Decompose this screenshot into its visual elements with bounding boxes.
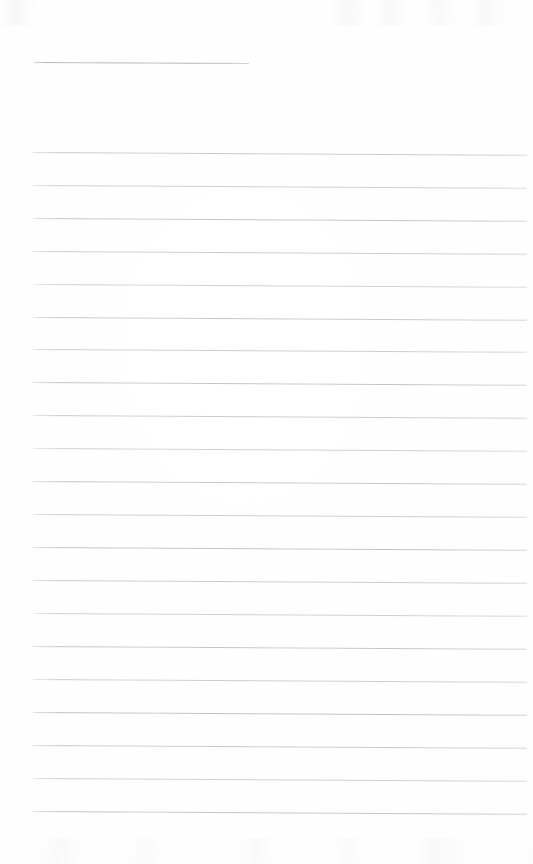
writing-line [0,634,533,647]
rule-line [33,218,527,222]
rule-line [33,646,527,650]
writing-line [0,700,533,713]
rule-line [33,382,527,386]
writing-line [0,206,533,219]
rule-line [33,448,527,452]
writing-line [0,766,533,779]
writing-line [0,733,533,746]
rule-line [33,415,527,419]
writing-line [0,436,533,449]
rule-line [33,547,527,551]
writing-line [0,502,533,515]
paper-surface [0,0,533,864]
title-rule [33,62,249,64]
rule-line [33,745,527,749]
writing-line [0,667,533,680]
rule-line [33,514,527,518]
writing-line [0,601,533,614]
writing-line [0,305,533,318]
writing-line [0,272,533,285]
rule-line [33,349,527,353]
rule-line [33,712,527,716]
rule-line [33,284,527,288]
rule-line [33,580,527,584]
writing-line [0,403,533,416]
rule-line [33,778,527,782]
writing-line [0,799,533,812]
rule-line [33,152,527,156]
rule-line [33,251,527,255]
scan-artifact-top [0,0,533,26]
writing-line [0,469,533,482]
scan-artifact-bottom [0,838,533,864]
writing-line [0,140,533,153]
rule-line [33,317,527,321]
rule-line [33,811,527,815]
rule-line [33,481,527,485]
writing-line [0,337,533,350]
scanned-page [0,0,533,864]
rule-line [33,613,527,617]
writing-line [0,535,533,548]
writing-line [0,239,533,252]
rule-line [33,679,527,683]
writing-line [0,173,533,186]
writing-line [0,568,533,581]
writing-line [0,370,533,383]
rule-line [33,185,527,189]
